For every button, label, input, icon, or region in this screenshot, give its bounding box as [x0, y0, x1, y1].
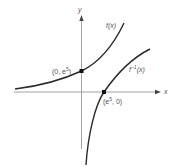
function-graph: y x f(x) f−1(x) (0, e5) (e5, 0)	[0, 0, 173, 168]
x-axis-label: x	[164, 88, 168, 95]
point-label-0-e5: (0, e5)	[52, 67, 71, 75]
y-axis-arrow-icon	[79, 15, 83, 21]
point-e5-0	[102, 90, 106, 94]
point-label-e5-0: (e5, 0)	[103, 97, 122, 105]
f-curve	[15, 23, 124, 89]
point-0-e5	[80, 69, 84, 73]
x-axis-arrow-icon	[155, 90, 161, 94]
f-label: f(x)	[106, 22, 116, 29]
plot-area	[0, 0, 173, 168]
y-axis-label: y	[78, 6, 82, 13]
f-inverse-label: f−1(x)	[129, 65, 145, 73]
